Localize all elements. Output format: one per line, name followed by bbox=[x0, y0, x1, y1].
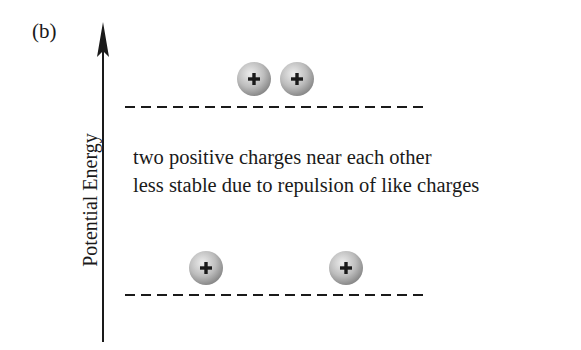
description-text: two positive charges near each other les… bbox=[133, 143, 479, 199]
positive-charge-icon bbox=[189, 251, 223, 285]
higher-energy-level bbox=[125, 62, 428, 107]
positive-charge-icon bbox=[280, 62, 314, 96]
axis-label: Potential Energy bbox=[79, 133, 101, 267]
description-line-1: two positive charges near each other bbox=[133, 143, 479, 171]
lower-energy-level bbox=[125, 251, 428, 295]
description-line-2: less stable due to repulsion of like cha… bbox=[133, 171, 479, 199]
positive-charge-icon bbox=[237, 62, 271, 96]
positive-charge-icon bbox=[329, 251, 363, 285]
